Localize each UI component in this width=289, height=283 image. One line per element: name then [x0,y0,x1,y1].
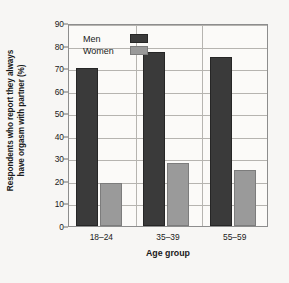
y-tick-label: 90 [24,19,64,29]
legend-swatch-women [130,46,148,55]
x-tick-label: 18–24 [66,232,136,242]
y-tick-label: 50 [24,109,64,119]
y-tick-label: 0 [24,222,64,232]
gridline [69,70,267,71]
y-tick-label: 10 [24,199,64,209]
legend-label-men: Men [83,34,130,44]
x-tick-label: 35–39 [133,232,203,242]
category-separator [202,25,203,226]
y-tick-label: 40 [24,132,64,142]
y-tick-label: 60 [24,87,64,97]
gridline [69,160,267,161]
y-tick-label: 80 [24,42,64,52]
bar-women-18–24 [100,183,122,226]
legend-item-men: Men [83,33,148,44]
y-axis-title-line-1: Respondents who report they always [7,49,18,190]
y-tick-label: 70 [24,64,64,74]
plot-area: Men Women [68,24,268,227]
legend: Men Women [83,33,148,56]
y-tick-label: 30 [24,154,64,164]
gridline [69,138,267,139]
bar-men-35–39 [143,52,165,226]
legend-item-women: Women [83,45,148,56]
gridline [69,93,267,94]
gridline [69,25,267,26]
bar-men-55–59 [210,57,232,226]
legend-swatch-men [130,34,148,43]
x-tick-label: 55–59 [200,232,270,242]
x-axis-title: Age group [68,248,268,258]
bar-men-18–24 [76,68,98,226]
y-tick-label: 20 [24,177,64,187]
bar-chart-figure: Respondents who report they always have … [0,0,289,283]
gridline [69,115,267,116]
bar-women-35–39 [167,163,189,226]
bar-women-55–59 [234,170,256,226]
legend-label-women: Women [83,46,130,56]
